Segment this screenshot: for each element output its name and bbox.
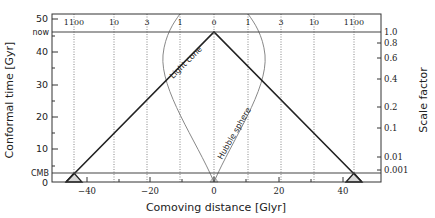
svg-text:1: 1 bbox=[177, 18, 182, 27]
svg-text:3: 3 bbox=[278, 18, 283, 27]
svg-text:10: 10 bbox=[109, 18, 119, 27]
right-axis-title: Scale factor bbox=[417, 67, 430, 133]
svg-text:30: 30 bbox=[36, 79, 48, 90]
top-redshift-labels: 1100 10 3 1 0 1 3 10 1100 bbox=[64, 18, 364, 27]
svg-text:40: 40 bbox=[36, 46, 48, 57]
svg-text:3: 3 bbox=[144, 18, 149, 27]
svg-text:0.1: 0.1 bbox=[384, 123, 398, 133]
svg-text:20: 20 bbox=[36, 111, 48, 122]
left-ticks bbox=[52, 19, 58, 166]
conformal-diagram: 50 40 30 20 10 0 now CMB 1100 10 3 1 0 1… bbox=[0, 0, 435, 218]
svg-text:0.01: 0.01 bbox=[384, 152, 403, 162]
now-label: now bbox=[32, 28, 49, 37]
svg-text:0.001: 0.001 bbox=[384, 165, 408, 175]
svg-text:40: 40 bbox=[338, 186, 349, 196]
right-ticks bbox=[377, 43, 381, 170]
dotted-gridlines bbox=[74, 14, 354, 182]
svg-text:0: 0 bbox=[211, 18, 216, 27]
svg-text:0.4: 0.4 bbox=[384, 74, 398, 84]
svg-text:1: 1 bbox=[245, 18, 250, 27]
svg-text:0: 0 bbox=[42, 177, 48, 188]
right-tick-labels: 1.0 0.8 0.6 0.4 0.2 0.1 0.01 0.001 bbox=[384, 27, 408, 175]
svg-text:0.8: 0.8 bbox=[384, 38, 398, 48]
hubble-sphere-annotation: Hubble sphere bbox=[216, 106, 253, 161]
light-cone-annotation: Light cone bbox=[168, 44, 204, 80]
x-axis-title: Comoving distance [Glyr] bbox=[146, 201, 286, 214]
svg-text:0: 0 bbox=[211, 186, 216, 196]
svg-text:−40: −40 bbox=[78, 186, 96, 196]
svg-text:1.0: 1.0 bbox=[384, 27, 398, 37]
svg-text:−20: −20 bbox=[141, 186, 159, 196]
cmb-label: CMB bbox=[31, 169, 49, 178]
svg-text:10: 10 bbox=[36, 143, 48, 154]
left-tick-labels: 50 40 30 20 10 0 now CMB bbox=[31, 13, 49, 188]
bottom-tick-labels: −40 −20 0 20 40 bbox=[78, 186, 348, 196]
svg-text:1100: 1100 bbox=[344, 18, 364, 27]
svg-text:20: 20 bbox=[274, 186, 285, 196]
svg-text:50: 50 bbox=[36, 13, 48, 24]
svg-text:1100: 1100 bbox=[64, 18, 84, 27]
svg-text:0.2: 0.2 bbox=[384, 102, 398, 112]
svg-text:10: 10 bbox=[309, 18, 319, 27]
left-axis-title: Conformal time [Gyr] bbox=[3, 42, 16, 159]
svg-text:0.6: 0.6 bbox=[384, 53, 398, 63]
